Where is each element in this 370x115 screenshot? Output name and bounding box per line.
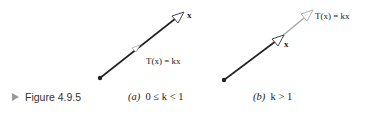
- caption-a: (a) 0 ≤ k < 1: [128, 91, 183, 102]
- origin-dot: [98, 76, 102, 80]
- figure-number: Figure 4.9.5: [25, 91, 81, 103]
- vector-x-line: [224, 38, 280, 80]
- panel-a-vectors: [98, 12, 184, 80]
- vector-x-label: x: [187, 10, 192, 20]
- origin-dot: [222, 78, 226, 82]
- triangle-right-icon: [12, 93, 19, 101]
- image-label: T(x) = kx: [146, 56, 181, 66]
- vector-x-line: [100, 15, 180, 78]
- image-label: T(x) = kx: [315, 11, 350, 21]
- caption-b: (b) k > 1: [253, 91, 292, 102]
- vector-x-label: x: [284, 39, 289, 49]
- vector-x-arrowhead-icon: [172, 12, 184, 23]
- figure-label: Figure 4.9.5: [12, 91, 81, 103]
- panel-b-vectors: [222, 10, 313, 82]
- vector-x-arrowhead-icon: [272, 35, 284, 46]
